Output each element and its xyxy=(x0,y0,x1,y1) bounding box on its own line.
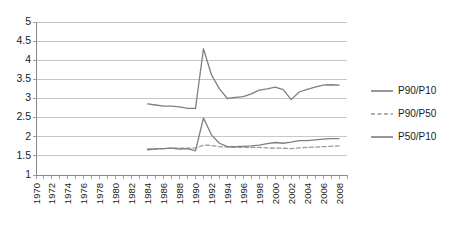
y-tick-label: 2.5 xyxy=(16,110,31,122)
x-tick-label: 1992 xyxy=(206,183,217,204)
x-tick-label: 1990 xyxy=(190,183,201,204)
x-tick-label: 1978 xyxy=(94,183,105,204)
x-tick-label: 1984 xyxy=(142,183,153,204)
x-tick-label: 2000 xyxy=(270,183,281,204)
x-tick-label: 2006 xyxy=(318,183,329,204)
chart-canvas: 54.543.532.521.51 1970197219741976197819… xyxy=(0,0,450,225)
gridlines xyxy=(36,22,347,175)
line-chart: 54.543.532.521.51 1970197219741976197819… xyxy=(0,0,450,225)
chart-legend: P90/P10P90/P50P50/P10 xyxy=(371,85,437,142)
x-tick-label: 1980 xyxy=(110,183,121,204)
legend-label: P50/P10 xyxy=(398,131,437,142)
data-series xyxy=(148,49,339,151)
y-tick-label: 3 xyxy=(25,91,31,103)
x-tick-label: 2008 xyxy=(334,183,345,204)
x-tick-label: 1974 xyxy=(62,183,73,204)
x-tick-label: 1982 xyxy=(126,183,137,204)
x-tick-label: 1970 xyxy=(31,183,42,204)
legend-label: P90/P50 xyxy=(398,108,437,119)
x-tick-label: 1996 xyxy=(238,183,249,204)
y-tick-label: 4.5 xyxy=(16,34,31,46)
x-tick-label: 1986 xyxy=(158,183,169,204)
x-tick-label: 1998 xyxy=(254,183,265,204)
series-line-p90-p10 xyxy=(148,49,339,109)
y-tick-label: 4 xyxy=(25,53,31,65)
y-tick-label: 2 xyxy=(25,130,31,142)
legend-label: P90/P10 xyxy=(398,85,437,96)
x-tick-label: 1976 xyxy=(78,183,89,204)
x-tick-label: 2002 xyxy=(286,183,297,204)
y-tick-label: 1 xyxy=(25,168,31,180)
x-tick-label: 1972 xyxy=(46,183,57,204)
x-axis-tick-labels: 1970197219741976197819801982198419861988… xyxy=(31,175,348,204)
y-axis-tick-labels: 54.543.532.521.51 xyxy=(16,15,36,180)
y-tick-label: 5 xyxy=(25,15,31,27)
x-tick-label: 1988 xyxy=(174,183,185,204)
x-tick-label: 1994 xyxy=(222,183,233,204)
x-tick-label: 2004 xyxy=(302,183,313,204)
series-line-p50-p10 xyxy=(148,118,339,151)
y-tick-label: 1.5 xyxy=(16,149,31,161)
y-tick-label: 3.5 xyxy=(16,72,31,84)
